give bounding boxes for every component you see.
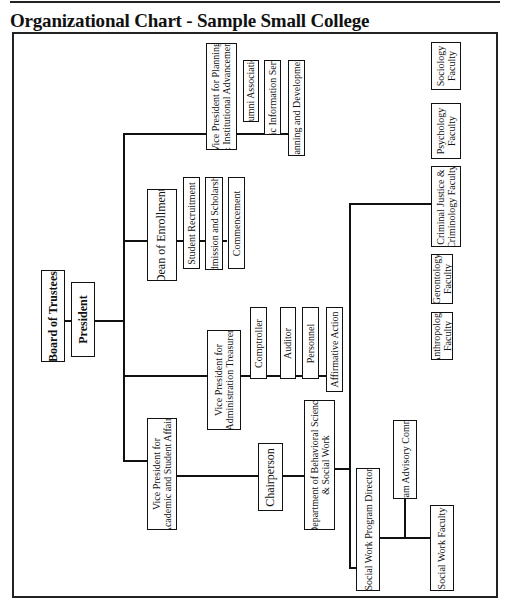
connector-chair-dept — [282, 475, 304, 477]
node-comptroller: Comptroller — [250, 307, 267, 379]
main-trunk — [123, 133, 125, 461]
node-student-recruitment: Student Recruitment — [183, 177, 200, 269]
node-social-work-faculty: Social Work Faculty — [430, 505, 454, 591]
node-alumni-association: Alumni Association — [243, 60, 259, 122]
node-commencement: Commencement — [228, 177, 245, 269]
connector-trunk-vp-academic — [123, 460, 147, 462]
node-program-advisory-committee: Program Advisory Committee — [393, 420, 417, 499]
connector-trunk-dean — [123, 240, 147, 242]
connector-trunk-vp-admin — [123, 375, 207, 377]
node-affirmative-action: Affirmative Action — [326, 307, 343, 392]
dept-branch-trunk — [349, 203, 351, 568]
node-vp-planning: Vice President for Planning & Institutio… — [206, 43, 237, 150]
node-dean-of-enrollment: Dean of Enrollment — [147, 189, 177, 281]
node-department: Department of Behavioral Science & Socia… — [304, 400, 335, 530]
connector-vp-academic-chair — [176, 475, 258, 477]
node-vp-administration: Vice President for Administration Treasu… — [207, 330, 241, 430]
node-personnel: Personnel — [302, 307, 319, 379]
node-anthropology-faculty: Anthropology Faculty — [431, 312, 453, 360]
node-planning-development: Planning and Development — [288, 60, 305, 156]
node-gerontology-faculty: Gerontology Faculty — [431, 254, 453, 304]
connector-trunk-vp-planning — [123, 133, 206, 135]
connector-advisory — [404, 498, 406, 538]
node-sociology-faculty: Sociology Faculty — [431, 42, 461, 90]
chart-title: Organizational Chart - Sample Small Coll… — [10, 10, 369, 32]
node-public-information: Public Information Services — [264, 60, 281, 135]
node-chairperson: Chairperson — [258, 443, 283, 511]
connector-board-president — [64, 320, 71, 322]
node-board-of-trustees: Board of Trustees — [41, 270, 65, 362]
node-vp-academic: Vice President for Academic and Student … — [147, 418, 177, 530]
node-psychology-faculty: Psychology Faculty — [431, 103, 461, 159]
connector-faculty-branch — [349, 203, 431, 205]
node-criminal-justice-faculty: Criminal Justice & Criminology Faculty — [431, 166, 461, 247]
node-auditor: Auditor — [280, 307, 296, 379]
connector-president-trunk — [94, 320, 124, 322]
connector-to-sw-director — [349, 567, 356, 569]
top-rule — [10, 1, 500, 3]
connector-dept-branch — [334, 468, 350, 470]
node-president: President — [71, 282, 95, 357]
node-sw-program-director: Social Work Program Director — [356, 468, 380, 591]
node-admission-scholarship: Admission and Scholarship — [205, 177, 223, 270]
